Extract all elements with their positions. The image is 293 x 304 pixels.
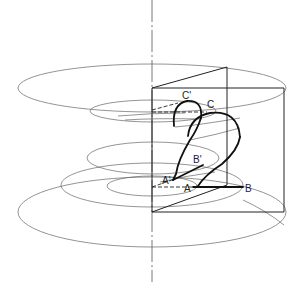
diagram-canvas: C' C B' A' A B	[0, 0, 293, 304]
helix-diagram: C' C B' A' A B	[0, 0, 293, 304]
label-b-prime: B'	[193, 154, 202, 165]
inner-helix-upper	[174, 101, 201, 126]
label-b: B	[245, 183, 252, 194]
outer-helix-lower	[196, 137, 240, 187]
helix-trail-3	[175, 118, 240, 127]
helix-trail-4	[190, 128, 240, 140]
label-c-prime: C'	[182, 90, 191, 101]
prism-box	[152, 67, 284, 212]
box-top-diagonal	[152, 67, 227, 88]
label-a: A	[184, 183, 191, 194]
label-a-prime: A'	[162, 175, 171, 186]
inner-helix-lower	[173, 118, 201, 180]
label-c: C	[207, 99, 214, 110]
radial-to-c-prime	[152, 103, 178, 110]
